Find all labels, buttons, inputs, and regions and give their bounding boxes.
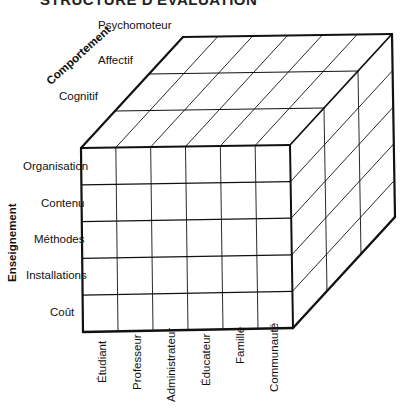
label-cognitif: Cognitif — [59, 90, 98, 102]
label-organisation: Organisation — [23, 160, 88, 172]
label-cout: Coût — [50, 306, 74, 318]
label-educateur: Éducateur — [200, 334, 212, 386]
label-administrateur: Administrateur — [165, 328, 177, 402]
label-etudiant: Étudiant — [96, 341, 108, 383]
label-methodes: Méthodes — [34, 233, 85, 245]
label-communaute: Communauté — [268, 323, 280, 392]
label-contenu: Contenu — [41, 197, 84, 209]
label-professeur: Professeur — [131, 334, 143, 390]
label-installations: Installations — [26, 269, 87, 281]
label-affectif: Affectif — [98, 54, 133, 66]
axis-label-enseignement: Enseignement — [6, 203, 18, 282]
label-psychomoteur: Psychomoteur — [98, 19, 172, 31]
label-famille: Famille — [234, 327, 246, 364]
